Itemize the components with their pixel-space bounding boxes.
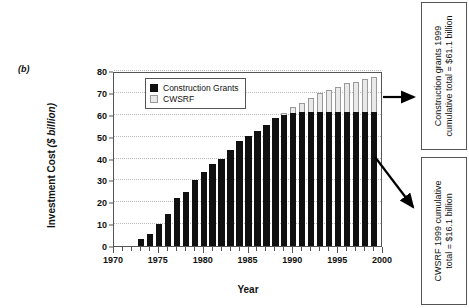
construction-grants-callout-line1: Construction grants 1999 [433,16,444,137]
bar-segment-construction-grants [335,112,341,246]
y-tick-label: 80 [97,67,107,77]
x-tick-label: 2000 [372,255,392,265]
bar-segment-construction-grants [156,224,162,246]
bar [263,125,269,246]
bar-segment-construction-grants [209,164,215,246]
bar [317,93,323,246]
y-tick-label: 70 [97,89,107,99]
bar-segment-construction-grants [308,112,314,246]
bar [299,103,305,247]
bar [165,214,171,246]
bar-segment-construction-grants [227,150,233,246]
y-axis: 01020304050607080 [0,0,113,249]
x-tick-label: 1970 [103,255,123,265]
x-tick-label: 1990 [282,255,302,265]
x-tick-mark-minor [346,247,347,251]
bar-segment-construction-grants [138,239,144,246]
bar [290,107,296,246]
bar-segment-construction-grants [290,113,296,246]
x-tick-mark-minor [328,247,329,251]
y-tick-label: 30 [97,176,107,186]
bar-segment-construction-grants [183,192,189,246]
bar [183,192,189,246]
bar [201,172,207,246]
bar-segment-cwsrf [344,83,350,112]
x-tick-mark-major [158,247,159,253]
bar [353,82,359,247]
bar-segment-construction-grants [201,172,207,246]
x-tick-mark-major [337,247,338,253]
x-tick-mark-minor [265,247,266,251]
x-tick-label: 1980 [193,255,213,265]
bar-segment-cwsrf [308,98,314,112]
legend-label-cwsrf: CWSRF [163,94,194,104]
x-tick-mark-minor [230,247,231,251]
y-tick-label: 50 [97,133,107,143]
bar-segment-construction-grants [263,125,269,246]
bar-segment-construction-grants [245,136,251,246]
legend-item-cwsrf: CWSRF [150,94,239,104]
gridline [114,70,381,71]
bar [344,83,350,246]
x-tick-mark-minor [355,247,356,251]
y-tick-label: 0 [102,242,107,252]
bar [281,113,287,246]
x-axis: 1970197519801985199019952000 [113,247,383,277]
bar-segment-construction-grants [353,112,359,246]
y-tick-label: 40 [97,155,107,165]
bar [218,159,224,246]
construction-grants-callout: Construction grants 1999 cumulative tota… [421,2,467,150]
bar-segment-cwsrf [353,82,359,113]
x-tick-label: 1975 [148,255,168,265]
bar [147,234,153,246]
bar-segment-construction-grants [236,141,242,246]
x-tick-mark-major [292,247,293,253]
y-tick-label: 10 [97,220,107,230]
x-tick-mark-major [203,247,204,253]
x-tick-mark-minor [310,247,311,251]
x-tick-mark-minor [283,247,284,251]
x-tick-mark-minor [131,247,132,251]
cwsrf-arrow-icon [375,157,425,219]
legend-item-construction-grants: Construction Grants [150,83,239,93]
bar [326,90,332,246]
x-tick-mark-minor [301,247,302,251]
construction-grants-callout-line2: cumulative total = $61.1 billion [444,16,455,137]
x-tick-mark-minor [373,247,374,251]
bar-segment-cwsrf [317,93,323,112]
x-tick-mark-minor [212,247,213,251]
bar [272,118,278,246]
x-tick-mark-minor [256,247,257,251]
chart-legend: Construction Grants CWSRF [145,78,246,109]
bar [156,224,162,246]
x-tick-mark-minor [194,247,195,251]
legend-swatch-construction-grants [150,84,158,92]
bar-segment-construction-grants [147,234,153,246]
bar-segment-cwsrf [299,103,305,113]
x-tick-mark-minor [185,247,186,251]
bar-segment-construction-grants [317,112,323,246]
bar [335,87,341,246]
bar [254,131,260,246]
x-tick-mark-minor [239,247,240,251]
bar-segment-cwsrf [362,79,368,112]
bar-segment-construction-grants [281,115,287,246]
x-tick-mark-minor [167,247,168,251]
bar-segment-cwsrf [326,90,332,112]
bar [227,150,233,246]
bar-segment-construction-grants [254,131,260,246]
bar-segment-construction-grants [299,112,305,246]
x-tick-mark-minor [274,247,275,251]
x-tick-mark-minor [176,247,177,251]
x-tick-mark-minor [149,247,150,251]
cwsrf-callout-line2: total = $16.1 billion [444,180,455,281]
x-tick-mark-major [113,247,114,253]
x-tick-mark-minor [221,247,222,251]
bar [174,198,180,246]
bar [138,239,144,246]
bar [209,164,215,246]
bar-segment-construction-grants [174,198,180,246]
bar [192,180,198,246]
bar-segment-cwsrf [335,87,341,113]
y-tick-label: 60 [97,111,107,121]
